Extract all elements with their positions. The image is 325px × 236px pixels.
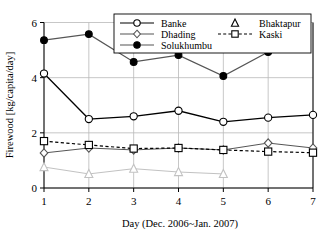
- data-point-open-square: [40, 138, 47, 145]
- data-point-open-square: [85, 141, 92, 148]
- data-point-filled-circle: [134, 42, 140, 48]
- data-point-open-circle: [134, 20, 140, 26]
- data-point-open-square: [309, 149, 316, 156]
- y-tick-label: 4: [32, 72, 38, 84]
- y-tick-labels: 0246: [32, 17, 38, 195]
- data-point-open-circle: [130, 113, 137, 120]
- y-tick-label: 2: [32, 127, 38, 139]
- data-point-open-square: [220, 146, 227, 153]
- data-point-filled-circle: [220, 73, 227, 80]
- data-point-filled-circle: [85, 31, 92, 38]
- x-axis-title: Day (Dec. 2006~Jan. 2007): [122, 218, 239, 230]
- data-point-filled-circle: [130, 59, 137, 66]
- legend-label: Solukhumbu: [161, 40, 212, 51]
- chart-svg: 0246 1234567 BankeBhaktapurDhadingKaskiS…: [0, 0, 325, 236]
- y-tick-label: 0: [32, 182, 38, 194]
- x-tick-labels: 1234567: [41, 195, 316, 207]
- legend-label: Banke: [161, 18, 187, 29]
- data-point-open-square: [232, 31, 238, 37]
- x-tick-label: 4: [176, 195, 182, 207]
- x-tick-label: 6: [265, 195, 271, 207]
- x-tick-label: 3: [131, 195, 137, 207]
- y-axis-title: Firewood [kg/capita/day]: [4, 52, 15, 158]
- data-point-open-square: [130, 145, 137, 152]
- data-point-open-diamond: [264, 139, 272, 147]
- firewood-consumption-chart: 0246 1234567 BankeBhaktapurDhadingKaskiS…: [0, 0, 325, 236]
- x-tick-label: 5: [221, 195, 227, 207]
- data-point-filled-circle: [41, 37, 48, 44]
- data-point-open-triangle: [130, 164, 138, 172]
- data-point-open-circle: [85, 115, 92, 122]
- data-point-open-circle: [40, 70, 47, 77]
- data-point-open-circle: [309, 111, 316, 118]
- x-tick-label: 1: [41, 195, 47, 207]
- data-point-open-square: [175, 144, 182, 151]
- legend-label: Dhading: [161, 29, 195, 40]
- data-point-open-diamond: [40, 149, 48, 157]
- x-tick-label: 7: [310, 195, 316, 207]
- data-point-open-circle: [265, 114, 272, 121]
- legend: BankeBhaktapurDhadingKaskiSolukhumbu: [114, 14, 311, 53]
- legend-label: Kaski: [259, 29, 283, 40]
- x-tick-label: 2: [86, 195, 92, 207]
- data-point-open-triangle: [40, 163, 48, 171]
- data-point-open-circle: [175, 107, 182, 114]
- legend-label: Bhaktapur: [259, 18, 301, 29]
- data-point-open-square: [265, 148, 272, 155]
- data-point-open-circle: [220, 118, 227, 125]
- y-tick-label: 6: [32, 17, 38, 29]
